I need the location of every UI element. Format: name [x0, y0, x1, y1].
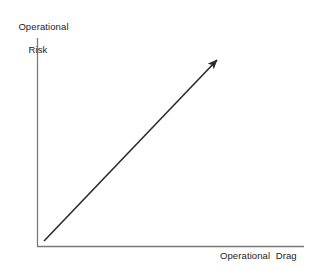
x-axis-label: Operational Drag [220, 250, 310, 262]
y-axis-label-line-1: Operational [18, 21, 68, 32]
chart-figure: Operational Risk Operational Drag [0, 0, 315, 270]
y-axis-label: Operational Risk [0, 9, 76, 78]
y-axis-label-line-2: Risk [0, 44, 76, 56]
trend-arrow [44, 60, 217, 241]
